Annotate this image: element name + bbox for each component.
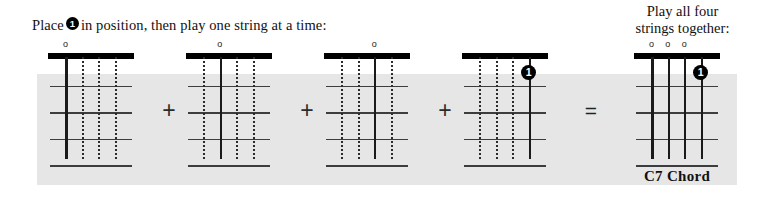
chord-name-label: C7 Chord [626,168,728,185]
string-line-2-muted [496,57,498,159]
fret-line [636,112,718,114]
string-line-2-muted [82,57,84,159]
fretboard [326,53,408,165]
open-string-marker-icon: o [61,40,70,49]
fret-line [50,86,132,88]
string-line-2-active [220,57,222,159]
nut-bar [186,53,272,59]
chord-diagram-body: ooo1C7 Chord [636,40,718,192]
string-line-4-muted [391,57,393,159]
nut-bar [462,53,548,59]
nut-bar [634,53,720,59]
open-string-marker-icon: o [663,40,672,49]
string-line-3-muted [236,57,238,159]
string-line-3-muted [512,57,514,159]
string-line-1-active [65,57,67,159]
fret-line [188,139,270,141]
string-line-1-muted [479,57,481,159]
open-string-marker-row: ooo [636,40,718,53]
open-string-marker-icon: o [647,40,656,49]
plus-operator: + [294,99,320,122]
fret-line [636,139,718,141]
string-line-2-muted [358,57,360,159]
finger-position-marker: 1 [693,65,708,80]
fret-line [50,112,132,114]
fret-line [188,112,270,114]
string-line-3-muted [98,57,100,159]
fret-line [464,86,546,88]
string-line-4-muted [253,57,255,159]
fretboard: 1 [636,53,718,165]
fret-line [50,139,132,141]
string-line-4-muted [115,57,117,159]
fret-line [464,165,546,167]
fret-line [464,112,546,114]
chord-diagram-row: ooo1ooo1C7 Chord+++= [0,0,764,200]
string-line-3-active [374,57,376,159]
open-string-marker-row: o [188,40,270,53]
string-line-2-active [668,57,670,159]
chord-diagram-c7-full-chord: ooo1C7 Chord [636,40,718,192]
open-string-marker-icon: o [370,40,379,49]
equals-operator: = [578,99,604,122]
fret-line [326,165,408,167]
string-line-1-muted [341,57,343,159]
open-string-marker-row: o [50,40,132,53]
chord-diagram-body: o [50,40,132,192]
fretboard: 1 [464,53,546,165]
string-line-1-active [651,57,653,159]
fret-line [326,112,408,114]
nut-bar [48,53,134,59]
fret-line [50,165,132,167]
plus-operator: + [156,99,182,122]
string-line-1-muted [203,57,205,159]
plus-operator: + [432,99,458,122]
fret-line [188,86,270,88]
chord-diagram-body: 1 [464,40,546,192]
open-string-marker-icon: o [215,40,224,49]
chord-diagram-string-4-fretted: 1 [464,40,546,192]
chord-diagram-body: o [188,40,270,192]
open-string-marker-icon: o [680,40,689,49]
fretboard [188,53,270,165]
fret-line [188,165,270,167]
chord-diagram-string-3-open: o [326,40,408,192]
fret-line [636,86,718,88]
fret-line [636,165,718,167]
chord-diagram-string-1-open: o [50,40,132,192]
chord-diagram-body: o [326,40,408,192]
chord-diagram-string-2-open: o [188,40,270,192]
open-string-marker-row: o [326,40,408,53]
finger-position-marker: 1 [521,65,536,80]
nut-bar [324,53,410,59]
fret-line [464,139,546,141]
fret-line [326,86,408,88]
string-line-3-active [684,57,686,159]
fretboard [50,53,132,165]
open-string-marker-row [464,40,546,53]
fret-line [326,139,408,141]
